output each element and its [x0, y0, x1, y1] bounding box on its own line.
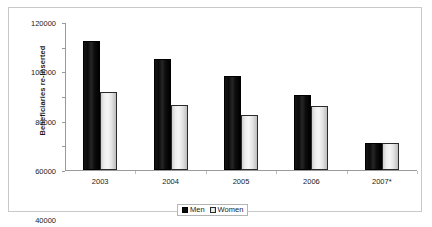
y-tick-mark: 60000 [62, 97, 65, 98]
x-tick-mark [276, 171, 277, 174]
x-tick-label: 2004 [162, 177, 179, 186]
y-tick-label: 80000 [35, 117, 56, 126]
y-axis-line [65, 23, 66, 171]
x-tick-label: 2003 [92, 177, 109, 186]
bar-men-2005 [224, 76, 241, 170]
x-axis-line [65, 170, 417, 171]
chart-frame: Beneficiaries re-inserted 02000040000600… [8, 7, 422, 212]
y-tick-mark: 80000 [62, 72, 65, 73]
y-tick-mark: 100000 [62, 48, 65, 49]
x-tick-mark [135, 171, 136, 174]
legend-label-women: Women [218, 206, 244, 214]
bar-men-2003 [83, 41, 100, 171]
plot-area: 020000400006000080000100000120000 200320… [65, 23, 417, 171]
y-axis-title: Beneficiaries re-inserted [38, 11, 47, 171]
x-tick-mark [347, 171, 348, 174]
x-tick-mark [417, 171, 418, 174]
bar-men-2007 [365, 143, 382, 170]
y-tick-mark: 40000 [62, 122, 65, 123]
bar-women-2007 [382, 143, 399, 170]
y-tick-label: 100000 [31, 68, 56, 77]
legend-swatch-women-icon [210, 207, 216, 213]
y-tick-mark: 120000 [62, 23, 65, 24]
bar-men-2006 [294, 95, 311, 170]
legend-swatch-men-icon [182, 207, 188, 213]
legend-label-men: Men [190, 206, 205, 214]
chart-screenshot: Beneficiaries re-inserted 02000040000600… [0, 0, 432, 227]
bar-women-2006 [311, 106, 328, 170]
legend-entry-women: Women [210, 206, 244, 214]
x-tick-label: 2007* [372, 177, 392, 186]
bar-women-2005 [241, 115, 258, 171]
chart-legend: Men Women [177, 204, 248, 216]
x-tick-label: 2006 [303, 177, 320, 186]
x-tick-label: 2005 [233, 177, 250, 186]
x-tick-mark [206, 171, 207, 174]
y-tick-label: 40000 [35, 216, 56, 225]
bar-women-2004 [171, 105, 188, 170]
y-tick-mark: 20000 [62, 146, 65, 147]
bar-men-2004 [154, 59, 171, 170]
bar-women-2003 [100, 92, 117, 170]
y-tick-mark: 0 [62, 171, 65, 172]
y-tick-label: 120000 [31, 19, 56, 28]
y-tick-label: 60000 [35, 167, 56, 176]
legend-entry-men: Men [182, 206, 205, 214]
